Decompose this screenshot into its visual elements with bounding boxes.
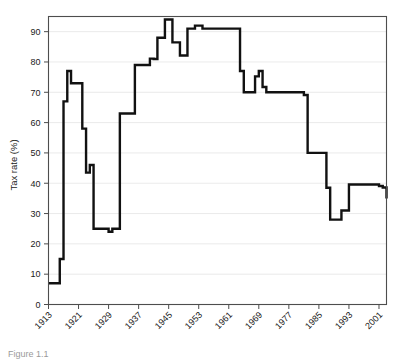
y-tick-label: 10 bbox=[30, 269, 40, 279]
x-tick-label: 1953 bbox=[183, 310, 204, 331]
y-tick-label: 60 bbox=[30, 118, 40, 128]
x-tick-label: 1985 bbox=[303, 310, 324, 331]
y-tick-label: 70 bbox=[30, 88, 40, 98]
x-tick-label: 2001 bbox=[363, 310, 384, 331]
y-tick-label: 50 bbox=[30, 148, 40, 158]
x-tick-label: 1937 bbox=[123, 310, 144, 331]
y-tick-label: 30 bbox=[30, 209, 40, 219]
plot-frame bbox=[49, 17, 387, 305]
y-tick-label: 90 bbox=[30, 27, 40, 37]
gridlines bbox=[49, 32, 387, 275]
y-tick-label: 80 bbox=[30, 57, 40, 67]
x-tick-label: 1945 bbox=[153, 310, 174, 331]
x-tick-label: 1969 bbox=[243, 310, 264, 331]
x-tick-label: 1929 bbox=[93, 310, 114, 331]
y-axis-title: Tax rate (%) bbox=[8, 139, 19, 190]
x-tick-label: 1921 bbox=[63, 310, 84, 331]
x-tick-label: 1977 bbox=[273, 310, 294, 331]
y-axis-ticks: 0102030405060708090 bbox=[30, 27, 48, 310]
y-tick-label: 40 bbox=[30, 179, 40, 189]
x-tick-label: 1993 bbox=[333, 310, 354, 331]
y-tick-label: 0 bbox=[35, 300, 40, 310]
x-axis-ticks: 1913192119291937194519531961196919771985… bbox=[33, 305, 385, 332]
x-tick-label: 1913 bbox=[33, 310, 54, 331]
y-tick-label: 20 bbox=[30, 239, 40, 249]
figure-caption: Figure 1.1 bbox=[8, 349, 49, 359]
x-tick-label: 1961 bbox=[213, 310, 234, 331]
